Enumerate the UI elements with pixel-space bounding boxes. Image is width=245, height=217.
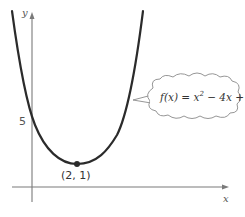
vertex-point [74, 161, 80, 167]
function-equation: f(x) = x2 − 4x + 5 [160, 90, 245, 103]
function-lhs: f(x) = x [160, 91, 199, 103]
y-intercept-label: 5 [19, 116, 26, 127]
vertex-label: (2, 1) [61, 170, 91, 181]
y-axis-arrow-icon [30, 12, 35, 19]
y-axis-label: y [22, 8, 28, 18]
function-rhs: − 4x + 5 [204, 91, 245, 103]
graph-canvas [0, 0, 245, 217]
x-axis-label: x [223, 194, 229, 204]
x-axis-arrow-icon [222, 185, 229, 190]
